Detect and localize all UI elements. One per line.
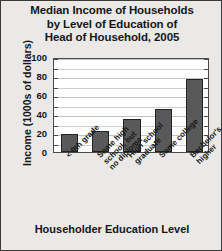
y-axis-tick-label: 100 [3,52,47,63]
y-axis-tick-label: 0 [3,147,47,158]
chart-figure: Median Income of Households by Level of … [0,0,222,251]
chart-title: Median Income of Households by Level of … [7,4,217,45]
y-axis-tick-label: 40 [3,109,47,120]
x-axis-title: Householder Education Level [1,223,222,235]
x-axis-tick-labels: < 9th gradeSome highschool, butno diplom… [53,154,209,212]
chart-title-line-3: Head of Household, 2005 [7,31,217,45]
y-axis-tick-label: 80 [3,71,47,82]
chart-title-line-1: Median Income of Households [7,4,217,18]
y-axis-tick-label: 60 [3,90,47,101]
y-axis-tick-label: 20 [3,128,47,139]
chart-title-line-2: by Level of Education of [7,18,217,32]
